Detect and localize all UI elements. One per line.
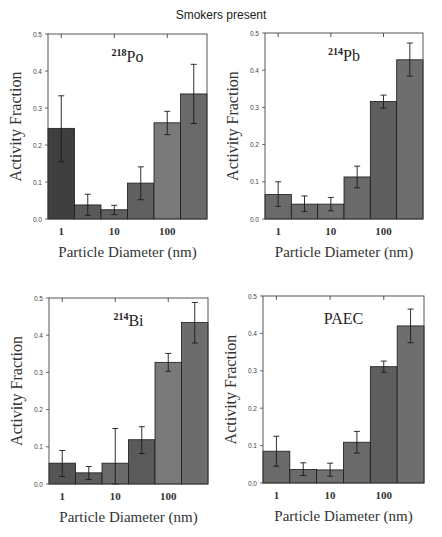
chart-panel-paec: 0.00.10.20.30.40.5110100PAECParticle Dia… [0,0,442,537]
y-tick-label: 0.4 [248,330,257,337]
bar [397,326,424,483]
y-axis-label: Activity Fraction [222,335,240,445]
y-tick-label: 0.1 [248,442,257,449]
y-tick-label: 0.2 [248,405,257,412]
chart-svg: 0.00.10.20.30.40.5110100PAECParticle Dia… [0,0,442,537]
x-tick-label: 100 [376,489,393,501]
y-tick-label: 0.3 [248,367,257,374]
bar [370,367,397,483]
x-tick-label: 1 [274,489,280,501]
panel-title: PAEC [324,310,363,327]
y-tick-label: 0.5 [248,293,257,300]
y-tick-label: 0.0 [248,480,257,487]
x-tick-label: 10 [325,489,337,501]
x-axis-label: Particle Diameter (nm) [274,508,412,525]
